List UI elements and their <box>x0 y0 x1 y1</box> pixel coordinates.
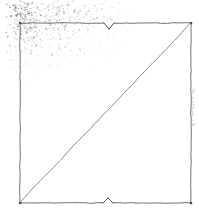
scanned-figure: Faded scanned line drawing of a square o… <box>0 0 199 220</box>
square-with-diagonal-drawing <box>0 0 199 220</box>
